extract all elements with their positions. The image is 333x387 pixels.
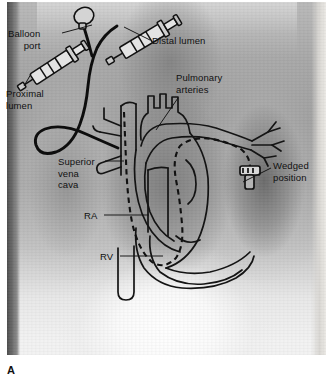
figure-panel: Balloon port Distal lumen Proximal lumen…: [0, 0, 333, 387]
annotation-pulmonary-arteries: Pulmonary arteries: [176, 72, 222, 95]
annotation-superior-vena-cava: Superior vena cava: [58, 156, 95, 191]
figure-panel-letter: A: [7, 364, 15, 376]
annotation-distal-lumen: Distal lumen: [152, 35, 205, 47]
annotation-balloon-port: Balloon port: [8, 28, 40, 51]
annotation-right-atrium: RA: [84, 210, 97, 222]
annotation-right-ventricle: RV: [100, 251, 113, 263]
annotation-wedged-position: Wedged position: [273, 160, 309, 183]
annotation-proximal-lumen: Proximal lumen: [6, 88, 44, 111]
